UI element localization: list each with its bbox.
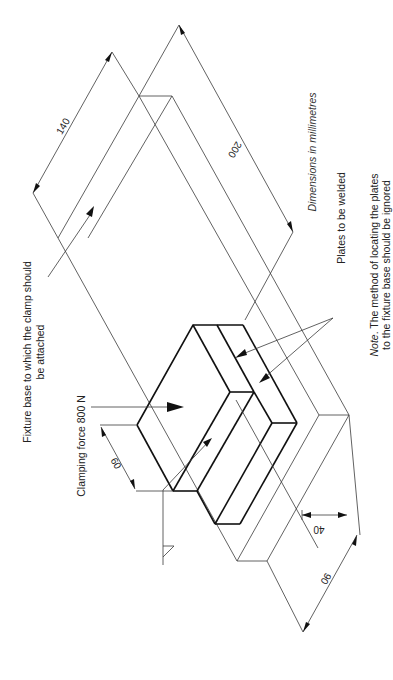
fixture-leader <box>48 206 94 277</box>
dim-140-label: 140 <box>54 116 72 136</box>
dim-60-label: 60 <box>108 456 123 472</box>
drawing-canvas: 140 200 <box>0 0 393 680</box>
plates-leaders <box>235 318 333 383</box>
dim-200-label: 200 <box>226 140 244 160</box>
dimension-200: 200 <box>139 25 293 320</box>
dimension-140: 140 <box>33 52 139 238</box>
clamping-force-label: Clamping force 800 N <box>75 395 87 497</box>
note-line1-text: . The method of locating the plates <box>368 173 380 334</box>
dim-90-label: 90 <box>318 571 333 587</box>
dimension-90: 90 <box>267 415 360 632</box>
dimension-60: 60 <box>100 425 173 491</box>
note-prefix: Note <box>368 334 380 356</box>
units-note: Dimensions in millimetres <box>306 92 318 212</box>
fixture-drawing: 140 200 <box>0 0 393 680</box>
dim-40-label: 40 <box>313 524 325 535</box>
weld-symbol <box>163 438 212 565</box>
weld-plates <box>137 325 318 548</box>
plates-label: Plates to be welded <box>335 172 347 264</box>
fixture-label-line2: be attached <box>34 324 46 379</box>
note-line1: Note. The method of locating the plates <box>368 173 380 356</box>
note-line2: to the fixture base should be ignored <box>380 180 392 350</box>
clamping-force-arrow <box>91 402 184 412</box>
fixture-label-line1: Fixture base to which the clamp should <box>21 261 33 443</box>
